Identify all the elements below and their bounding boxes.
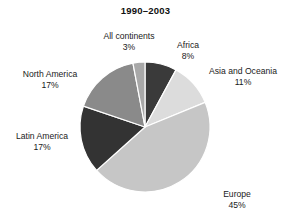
pie-label-all-continents: All continents 3%: [86, 31, 172, 53]
pie-label-europe-name: Europe: [207, 189, 267, 200]
pie-label-north-america-name: North America: [8, 69, 92, 80]
pie-label-asia-and-oceania-name: Asia and Oceania: [196, 66, 290, 77]
pie-label-asia-and-oceania: Asia and Oceania 11%: [196, 66, 290, 88]
pie-label-latin-america-name: Latin America: [1, 131, 83, 142]
pie-label-europe: Europe 45%: [207, 189, 267, 211]
pie-chart-figure: 1990–2003 All continents 3% Africa 8% As…: [0, 0, 291, 223]
pie-label-north-america: North America 17%: [8, 69, 92, 91]
pie-label-africa-name: Africa: [166, 40, 210, 51]
pie-label-north-america-value: 17%: [8, 80, 92, 91]
pie-slice-group: [80, 62, 210, 192]
pie-label-all-continents-value: 3%: [86, 42, 172, 53]
pie-label-africa: Africa 8%: [166, 40, 210, 62]
pie-label-europe-value: 45%: [207, 200, 267, 211]
pie-label-latin-america: Latin America 17%: [1, 131, 83, 153]
pie-label-latin-america-value: 17%: [1, 142, 83, 153]
pie-label-africa-value: 8%: [166, 51, 210, 62]
pie-label-asia-and-oceania-value: 11%: [196, 77, 290, 88]
pie-label-all-continents-name: All continents: [86, 31, 172, 42]
